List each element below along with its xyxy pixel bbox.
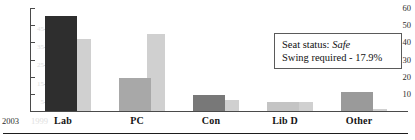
annotation-seat-status-value: Safe <box>332 39 350 50</box>
bar-2003-pc <box>119 78 151 111</box>
bottom-rule <box>3 133 408 134</box>
bar-group-pc <box>119 8 193 111</box>
bar-2003-lib-d <box>267 102 299 111</box>
annotation-seat-status-label: Seat status: <box>282 39 332 50</box>
x-label-pc: PC <box>109 115 165 126</box>
annotation-swing-required: Swing required - 17.9% <box>282 51 401 64</box>
bar-group-lab <box>45 8 119 111</box>
series-label-1999: 1999 <box>31 116 48 126</box>
x-label-con: Con <box>183 115 239 126</box>
bar-2003-con <box>193 95 225 111</box>
x-label-other: Other <box>331 115 387 126</box>
x-axis-baseline <box>30 111 408 112</box>
series-label-2003: 2003 <box>2 116 19 126</box>
bar-2003-other <box>341 92 373 111</box>
x-label-lib-d: Lib D <box>257 115 313 126</box>
annotation-seat-status: Seat status: Safe <box>282 38 401 51</box>
bar-group-con <box>193 8 267 111</box>
annotation-box: Seat status: Safe Swing required - 17.9% <box>274 33 402 69</box>
bar-2003-lab <box>45 16 77 111</box>
